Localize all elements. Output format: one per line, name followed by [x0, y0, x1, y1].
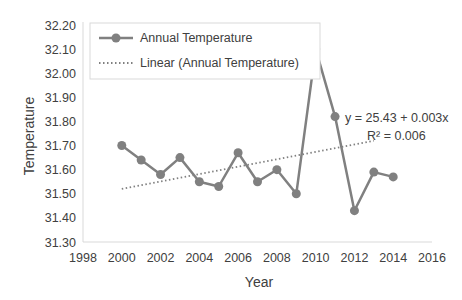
data-point-marker: [175, 153, 184, 162]
data-point-marker: [350, 206, 359, 215]
trendline: [122, 141, 374, 189]
x-tick-label: 2016: [418, 251, 446, 265]
y-tick-label: 32.10: [45, 43, 76, 57]
data-point-marker: [389, 172, 398, 181]
trendline-equation: y = 25.43 + 0.003x: [345, 111, 449, 125]
trendline-r-squared: R² = 0.006: [367, 129, 426, 143]
legend-series-label: Annual Temperature: [140, 31, 252, 45]
y-axis-title: Temperature: [21, 96, 37, 175]
data-point-marker: [195, 177, 204, 186]
data-point-marker: [369, 168, 378, 177]
y-tick-label: 31.30: [45, 236, 76, 250]
data-point-marker: [331, 112, 340, 121]
y-tick-label: 32.00: [45, 67, 76, 81]
data-point-marker: [117, 141, 126, 150]
trendline-path: [122, 141, 374, 189]
data-point-marker: [234, 148, 243, 157]
y-tick-label: 31.90: [45, 91, 76, 105]
legend-series-marker-icon: [112, 34, 121, 43]
x-tick-label: 2010: [302, 251, 330, 265]
y-tick-label: 31.60: [45, 163, 76, 177]
data-point-marker: [156, 170, 165, 179]
x-tick-label: 2014: [379, 251, 407, 265]
y-tick-labels: 31.3031.4031.5031.6031.7031.8031.9032.00…: [45, 19, 76, 250]
x-tick-label: 2002: [147, 251, 175, 265]
x-tick-labels: 1998200020022004200620082010201220142016: [69, 251, 446, 265]
y-tick-label: 31.80: [45, 115, 76, 129]
legend: Annual Temperature Linear (Annual Temper…: [90, 23, 320, 79]
x-tick-label: 2012: [341, 251, 369, 265]
x-axis-title: Year: [245, 274, 274, 290]
data-point-marker: [272, 165, 281, 174]
x-tick-label: 2008: [263, 251, 291, 265]
y-tick-label: 31.70: [45, 139, 76, 153]
data-point-marker: [137, 156, 146, 165]
x-tick-label: 2004: [185, 251, 213, 265]
data-point-marker: [253, 177, 262, 186]
x-tick-label: 2006: [224, 251, 252, 265]
data-point-marker: [214, 182, 223, 191]
line-chart: 31.3031.4031.5031.6031.7031.8031.9032.00…: [0, 0, 462, 300]
y-tick-label: 32.20: [45, 19, 76, 33]
data-point-marker: [292, 189, 301, 198]
legend-trendline-label: Linear (Annual Temperature): [140, 56, 299, 70]
y-tick-label: 31.40: [45, 211, 76, 225]
x-tick-label: 1998: [69, 251, 97, 265]
x-tick-label: 2000: [108, 251, 136, 265]
y-tick-label: 31.50: [45, 187, 76, 201]
